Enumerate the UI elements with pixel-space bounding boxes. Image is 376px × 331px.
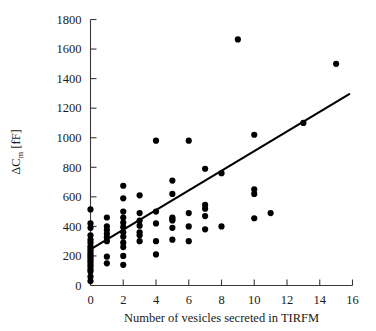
data-point xyxy=(218,223,224,229)
data-point xyxy=(137,210,143,216)
y-tick-label-400: 400 xyxy=(63,220,82,234)
axis-titles: Number of vesicles secreted in TIRFMΔCm … xyxy=(9,129,319,325)
data-point xyxy=(137,238,143,244)
x-tick-label-4: 4 xyxy=(153,293,160,307)
data-point xyxy=(251,132,257,138)
data-point xyxy=(202,202,208,208)
data-point xyxy=(104,214,110,220)
data-point xyxy=(87,206,93,212)
data-point xyxy=(120,195,126,201)
data-point xyxy=(300,120,306,126)
x-tick-label-6: 6 xyxy=(186,293,192,307)
x-tick-label-10: 10 xyxy=(248,293,261,307)
data-point xyxy=(104,223,110,229)
data-point xyxy=(169,237,175,243)
data-point xyxy=(202,226,208,232)
y-tick-label-800: 800 xyxy=(63,161,82,175)
data-point xyxy=(120,262,126,268)
tick-labels: 0200400600800100012001400160018000246810… xyxy=(57,13,359,307)
data-point xyxy=(169,214,175,220)
data-point xyxy=(333,61,339,67)
x-tick-label-2: 2 xyxy=(120,293,126,307)
x-axis-title: Number of vesicles secreted in TIRFM xyxy=(124,311,319,325)
data-point xyxy=(218,170,224,176)
data-point xyxy=(169,191,175,197)
y-tick-label-1600: 1600 xyxy=(57,42,82,56)
data-point xyxy=(87,220,93,226)
data-point xyxy=(137,229,143,235)
data-point xyxy=(251,186,257,192)
data-point xyxy=(202,166,208,172)
data-point xyxy=(268,210,274,216)
y-tick-label-200: 200 xyxy=(63,249,82,263)
data-point xyxy=(153,138,159,144)
x-tick-label-12: 12 xyxy=(281,293,294,307)
data-point xyxy=(153,251,159,257)
data-point xyxy=(186,223,192,229)
y-tick-label-1800: 1800 xyxy=(57,13,82,27)
data-point xyxy=(137,192,143,198)
data-point xyxy=(153,209,159,215)
scatter-plot-figure: 0200400600800100012001400160018000246810… xyxy=(0,0,376,331)
y-tick-label-0: 0 xyxy=(75,279,81,293)
y-tick-label-1000: 1000 xyxy=(57,131,82,145)
x-tick-label-0: 0 xyxy=(87,293,93,307)
data-points xyxy=(87,36,339,284)
data-point xyxy=(137,217,143,223)
x-tick-label-16: 16 xyxy=(346,293,359,307)
data-point xyxy=(87,232,93,238)
data-point xyxy=(169,225,175,231)
data-point xyxy=(120,253,126,259)
y-tick-label-600: 600 xyxy=(63,190,82,204)
data-point xyxy=(251,215,257,221)
data-point xyxy=(186,138,192,144)
data-point xyxy=(120,183,126,189)
y-tick-label-1200: 1200 xyxy=(57,101,82,115)
data-point xyxy=(104,260,110,266)
data-point xyxy=(120,209,126,215)
x-tick-label-14: 14 xyxy=(314,293,327,307)
data-point xyxy=(120,240,126,246)
x-tick-label-8: 8 xyxy=(218,293,224,307)
y-axis-title: ΔCm [fF] xyxy=(9,129,25,175)
data-point xyxy=(120,214,126,220)
data-point xyxy=(186,238,192,244)
y-tick-label-1400: 1400 xyxy=(57,72,82,86)
data-point xyxy=(104,254,110,260)
chart-canvas: 0200400600800100012001400160018000246810… xyxy=(0,0,376,331)
data-point xyxy=(153,238,159,244)
data-point xyxy=(186,210,192,216)
data-point xyxy=(169,177,175,183)
data-point xyxy=(235,36,241,42)
data-point xyxy=(153,220,159,226)
data-point xyxy=(202,213,208,219)
axes xyxy=(91,20,353,286)
